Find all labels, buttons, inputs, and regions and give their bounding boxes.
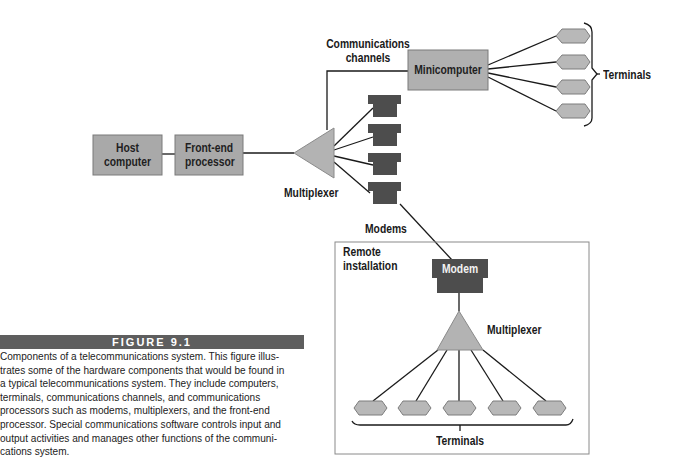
remote-line1: Remote [343, 245, 397, 259]
multiplexer-triangle [294, 128, 334, 178]
host-computer-line2: computer [98, 155, 157, 169]
terminal-icon [556, 29, 590, 43]
terminal-icon [556, 55, 590, 69]
terminal-icon [556, 104, 590, 118]
remote-installation-label: Remote installation [343, 245, 397, 273]
communications-channels-label: Communications channels [325, 37, 411, 65]
multiplexer-label: Multiplexer [284, 186, 338, 200]
caption-line: a typical telecommunications system. The… [0, 377, 306, 391]
caption-line: cations system. [0, 445, 306, 459]
remote-line2: installation [343, 259, 397, 273]
front-end-processor-label: Front-end processor [180, 141, 238, 169]
terminals-top-label: Terminals [603, 68, 651, 82]
remote-modem-label: Modem [436, 262, 484, 276]
comm-channels-line2: channels [325, 51, 411, 65]
minicomputer-label: Minicomputer [414, 63, 483, 77]
remote-multiplexer-label: Multiplexer [487, 323, 541, 337]
caption-line: terminals, communications channels, and … [0, 391, 306, 405]
terminals-bracket-bottom [352, 419, 573, 425]
terminal-icon [443, 401, 476, 415]
host-computer-label: Host computer [98, 141, 157, 169]
caption-line: processors such as modems, multiplexers,… [0, 404, 306, 418]
terminal-icon [354, 401, 387, 415]
figure-label-bar: FIGURE 9.1 [0, 335, 304, 349]
front-end-line2: processor [185, 155, 238, 169]
figure-caption: Components of a telecommunications syste… [0, 350, 306, 459]
terminal-icon [533, 401, 566, 415]
modem-icon [368, 95, 401, 117]
modems-label: Modems [365, 222, 407, 236]
terminal-icon [398, 401, 431, 415]
modem-icon [368, 153, 401, 175]
modem-icon [368, 124, 401, 146]
top-terminals [556, 29, 590, 118]
front-end-line1: Front-end [185, 141, 238, 155]
caption-line: processor. Special communications softwa… [0, 418, 306, 432]
terminal-icon [488, 401, 521, 415]
modems-group [368, 95, 401, 204]
bottom-terminals [354, 401, 566, 415]
terminal-icon [556, 80, 590, 94]
caption-line: output activities and manages other func… [0, 432, 306, 446]
caption-line: trates some of the hardware components t… [0, 364, 306, 378]
modem-icon [368, 182, 401, 204]
remote-multiplexer-triangle [437, 311, 483, 350]
comm-channels-line1: Communications [325, 37, 411, 51]
terminals-bottom-label: Terminals [436, 434, 484, 448]
caption-line: Components of a telecommunications syste… [0, 350, 306, 364]
host-computer-line1: Host [98, 141, 157, 155]
